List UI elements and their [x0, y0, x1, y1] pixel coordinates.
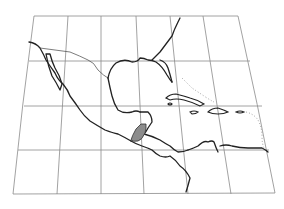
graticule-grid: [13, 16, 275, 194]
highlighted-country-guatemala: [131, 124, 146, 141]
bahamas: [182, 78, 214, 102]
lesser-antilles: [246, 112, 264, 148]
puerto-rico: [236, 111, 244, 113]
jamaica: [190, 111, 198, 114]
coastlines: [29, 18, 268, 192]
locator-map: [0, 0, 284, 209]
caribbean-islands: [166, 78, 264, 148]
